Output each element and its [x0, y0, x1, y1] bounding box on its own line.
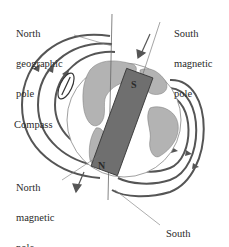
label-south-magnetic-pole: South magnetic pole	[174, 9, 212, 119]
label-line: North	[16, 29, 63, 39]
label-line: pole	[174, 89, 212, 99]
label-south-geographic-pole: South geographic pole	[166, 209, 213, 247]
label-line: South	[174, 29, 212, 39]
label-line: North	[16, 183, 54, 193]
label-line: magnetic	[16, 213, 54, 223]
label-line: pole	[16, 89, 63, 99]
label-compass: Compass	[14, 100, 53, 150]
label-line: Compass	[14, 120, 53, 130]
label-line: South	[166, 229, 213, 239]
label-north-magnetic-pole: North magnetic pole	[16, 163, 54, 247]
label-line: pole	[16, 243, 54, 247]
magnet-south-pole-letter: S	[131, 80, 137, 90]
magnetic-field-diagram: North geographic pole South magnetic pol…	[0, 0, 229, 247]
magnet-north-pole-letter: N	[98, 161, 105, 171]
label-line: geographic	[16, 59, 63, 69]
label-line: magnetic	[174, 59, 212, 69]
